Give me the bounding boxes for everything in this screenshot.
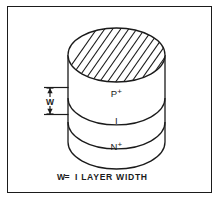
figure-caption: W = I LAYER WIDTH [57, 172, 148, 182]
caption-definition: I LAYER WIDTH [75, 172, 148, 182]
pin-diode-diagram: P+ I N+ W W = I LAY [0, 0, 221, 207]
figure-root: P+ I N+ W W = I LAY [0, 0, 221, 207]
w-arrowhead-top [47, 88, 52, 93]
w-dimension-label: W [46, 97, 55, 107]
w-arrowhead-bottom [47, 109, 52, 114]
caption-equals: = [65, 172, 70, 182]
layer-label-intrinsic: I [115, 115, 118, 126]
